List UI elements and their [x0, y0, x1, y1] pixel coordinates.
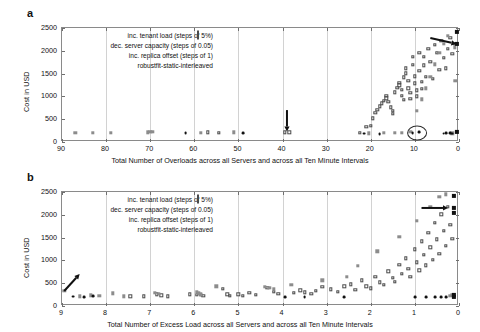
data-point-s1	[122, 294, 125, 297]
legend-marker	[197, 32, 199, 39]
data-point-s0	[166, 294, 169, 297]
y-tick-label: 0	[27, 301, 57, 310]
panel-b-legend: inc. tenant load (steps of 5%)dec. serve…	[45, 194, 213, 234]
annotation-ellipse	[407, 125, 427, 140]
legend-item-3: robustfit-static-interleaved	[45, 224, 213, 234]
x-tick-label: 90	[57, 144, 65, 153]
y-tick	[62, 142, 65, 143]
data-point-s0	[217, 131, 220, 134]
data-point-s2	[343, 296, 346, 299]
y-tick-label: 1500	[27, 232, 57, 241]
y-tick	[62, 238, 65, 239]
data-point-s0	[276, 292, 279, 295]
data-point-s0	[272, 290, 275, 293]
x-tick	[283, 28, 284, 31]
data-point-s0	[303, 291, 306, 294]
x-tick-label: 50	[233, 144, 241, 153]
data-point-s0	[415, 89, 418, 92]
legend-label: dec. server capacity (steps of 0.05)	[110, 206, 213, 213]
data-point-s0	[413, 248, 416, 251]
legend-label: inc. replica offset (steps of 1)	[129, 52, 213, 59]
data-point-s3	[452, 194, 456, 198]
data-point-s0	[404, 71, 407, 74]
x-tick-label: 30	[322, 144, 330, 153]
y-tick	[456, 142, 459, 143]
data-point-s0	[142, 295, 145, 298]
y-tick-label: 1000	[27, 91, 57, 100]
x-tick	[106, 139, 107, 142]
data-point-s0	[431, 258, 434, 261]
data-point-s2	[303, 295, 306, 298]
x-tick-label: 2	[368, 308, 372, 317]
data-point-s0	[422, 64, 425, 67]
panel-a: a Cost in USD Total Number of Overloads …	[0, 0, 480, 166]
x-tick-label: 80	[101, 144, 109, 153]
legend-label: robustfit-static-interleaved	[138, 226, 214, 233]
data-point-s0	[409, 91, 412, 94]
data-point-s0	[376, 108, 379, 111]
marker-open-square-icon	[197, 195, 199, 204]
data-point-s1	[199, 293, 202, 296]
data-point-s0	[391, 276, 394, 279]
x-tick	[459, 303, 460, 306]
x-tick-label: 4	[280, 308, 284, 317]
x-tick	[238, 303, 239, 306]
data-point-s3	[452, 206, 456, 210]
x-tick	[106, 303, 107, 306]
data-point-s0	[418, 269, 421, 272]
data-point-s1	[446, 34, 449, 37]
data-point-s0	[314, 289, 317, 292]
data-point-s0	[354, 288, 357, 291]
data-point-s1	[356, 264, 359, 267]
data-point-s1	[400, 131, 403, 134]
x-tick	[150, 139, 151, 142]
x-gridline	[327, 28, 328, 140]
legend-label: inc. replica offset (steps of 1)	[129, 216, 213, 223]
x-gridline	[283, 28, 284, 140]
data-point-s0	[349, 282, 352, 285]
data-point-s1	[232, 131, 235, 134]
x-tick	[194, 139, 195, 142]
y-tick	[456, 51, 459, 52]
data-point-s1	[398, 235, 401, 238]
data-point-s1	[433, 63, 436, 66]
y-tick	[62, 306, 65, 307]
data-point-s0	[221, 287, 224, 290]
data-point-s1	[98, 294, 101, 297]
data-point-s0	[378, 281, 381, 284]
data-point-s1	[382, 131, 385, 134]
x-tick-label: 7	[147, 308, 151, 317]
data-point-s2	[425, 296, 428, 299]
data-point-s2	[72, 295, 75, 298]
data-point-s0	[321, 285, 324, 288]
data-point-s0	[387, 270, 390, 273]
data-point-s0	[382, 283, 385, 286]
data-point-s2	[444, 296, 447, 299]
x-tick	[283, 192, 284, 195]
data-point-s0	[426, 231, 429, 234]
x-tick-label: 8	[103, 308, 107, 317]
data-point-s3	[452, 295, 456, 299]
data-point-s0	[237, 293, 240, 296]
data-point-s0	[435, 238, 438, 241]
x-tick-label: 3	[324, 308, 328, 317]
y-tick	[62, 260, 65, 261]
data-point-s0	[371, 117, 374, 120]
data-point-s0	[433, 221, 436, 224]
y-tick-label: 2000	[27, 45, 57, 54]
data-point-s0	[387, 100, 390, 103]
data-point-s1	[153, 291, 156, 294]
data-point-s0	[206, 131, 209, 134]
data-point-s3	[455, 129, 459, 133]
data-point-s0	[254, 293, 257, 296]
data-point-s0	[420, 80, 423, 83]
x-tick	[327, 192, 328, 195]
panel-a-x-axis-label: Total Number of Overloads across all Ser…	[0, 156, 480, 165]
data-point-s0	[422, 253, 425, 256]
legend-marker	[197, 196, 199, 203]
y-tick	[456, 283, 459, 284]
data-point-s1	[78, 294, 81, 297]
data-point-s1	[454, 79, 457, 82]
y-tick	[456, 260, 459, 261]
data-point-s0	[440, 213, 443, 216]
